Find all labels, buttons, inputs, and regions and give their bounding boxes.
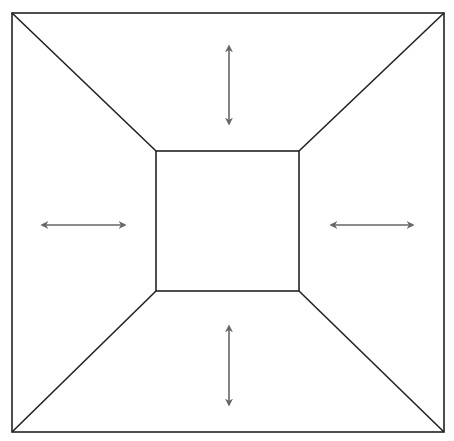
diagonal-top-right (299, 13, 444, 151)
frame (12, 13, 444, 432)
diagonal-bottom-left (12, 291, 156, 432)
arrows (42, 46, 413, 405)
diagonal-top-left (12, 13, 156, 151)
stretch-diagram (0, 0, 454, 441)
inner-square (156, 151, 299, 291)
diagonal-bottom-right (299, 291, 444, 432)
